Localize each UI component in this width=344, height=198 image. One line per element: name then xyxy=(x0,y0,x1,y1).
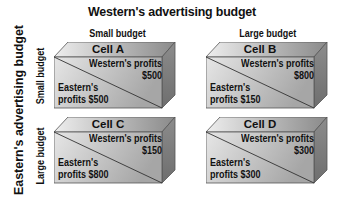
cell-name: Cell A xyxy=(54,43,162,55)
eastern-profits: Eastern's profits $800 xyxy=(58,157,109,181)
column-label-small: Small budget xyxy=(89,28,146,39)
row-label-large: Large budget xyxy=(35,127,46,184)
cell-b: Cell B Western's profits $800 Eastern's … xyxy=(206,42,328,110)
cell-name: Cell C xyxy=(54,118,162,130)
western-profits: Western's profits $500 xyxy=(89,58,162,82)
western-profits: Western's profits $300 xyxy=(241,133,314,157)
row-label-small: Small budget xyxy=(35,48,46,105)
eastern-profits: Eastern's profits $500 xyxy=(58,82,109,106)
row-axis-title: Eastern's advertising budget xyxy=(11,25,26,195)
cell-a: Cell A Western's profits $500 Eastern's … xyxy=(54,42,176,110)
eastern-profits: Eastern's profits $300 xyxy=(210,157,261,181)
eastern-profits: Eastern's profits $150 xyxy=(210,82,261,106)
western-profits: Western's profits $150 xyxy=(89,133,162,157)
cell-d: Cell D Western's profits $300 Eastern's … xyxy=(206,117,328,185)
column-label-large: Large budget xyxy=(239,28,296,39)
western-profits: Western's profits $800 xyxy=(241,58,314,82)
cell-name: Cell B xyxy=(206,43,314,55)
cell-c: Cell C Western's profits $150 Eastern's … xyxy=(54,117,176,185)
diagram-title: Western's advertising budget xyxy=(14,4,330,19)
cell-name: Cell D xyxy=(206,118,314,130)
